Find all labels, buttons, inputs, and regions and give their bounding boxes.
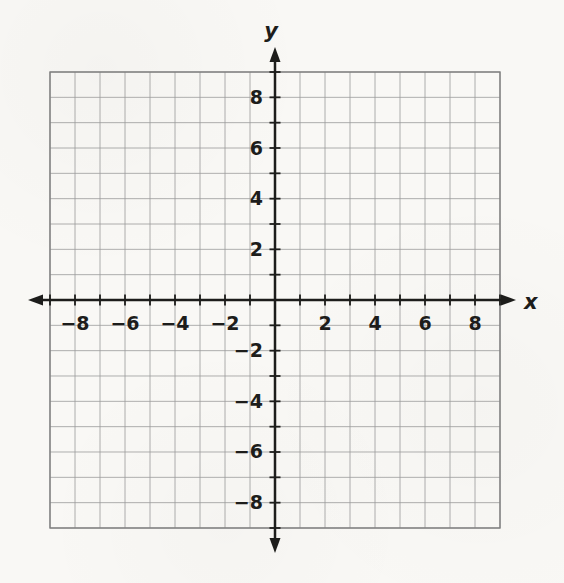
y-tick-label: 2 xyxy=(250,238,263,260)
x-tick-label: 4 xyxy=(368,312,381,334)
y-tick-label: −6 xyxy=(234,440,263,462)
x-tick-label: 8 xyxy=(468,312,481,334)
coordinate-plane: −8−6−4−22468 −8−6−4−22468 x y xyxy=(0,0,564,583)
x-tick-label: −6 xyxy=(110,312,139,334)
y-tick-label: 6 xyxy=(250,137,263,159)
y-tick-label: 8 xyxy=(250,86,263,108)
y-tick-label: 4 xyxy=(250,187,263,209)
y-tick-label: −2 xyxy=(234,339,263,361)
x-tick-labels: −8−6−4−22468 xyxy=(60,312,481,334)
y-tick-label: −4 xyxy=(234,390,263,412)
y-tick-label: −8 xyxy=(234,491,263,513)
graph-paper-page: −8−6−4−22468 −8−6−4−22468 x y xyxy=(0,0,564,583)
x-tick-label: 2 xyxy=(318,312,331,334)
x-tick-label: −4 xyxy=(160,312,189,334)
x-tick-label: 6 xyxy=(418,312,431,334)
x-tick-label: −8 xyxy=(60,312,89,334)
y-axis-label: y xyxy=(264,19,279,43)
x-axis-label: x xyxy=(523,290,539,314)
x-tick-label: −2 xyxy=(210,312,239,334)
